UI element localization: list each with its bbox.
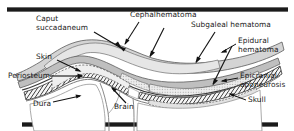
label-cephalhematoma: Cephalhematoma <box>130 11 196 20</box>
label-skull: Skull <box>248 96 266 105</box>
figure-container: Caput succadaneum Cephalhematoma Subgale… <box>0 0 294 131</box>
label-epicranial-aponeurosis: Epicranial aponeurosis <box>240 72 285 89</box>
label-periosteum: Periosteum <box>8 72 50 81</box>
label-subgaleal-hematoma: Subgaleal hematoma <box>191 21 271 30</box>
label-dura: Dura <box>33 100 51 109</box>
label-caput-succedaneum: Caput succadaneum <box>36 15 88 32</box>
label-epidural-hematoma: Epidural hematoma <box>238 37 279 54</box>
label-brain: Brain <box>114 103 134 112</box>
label-skin: Skin <box>36 53 52 62</box>
